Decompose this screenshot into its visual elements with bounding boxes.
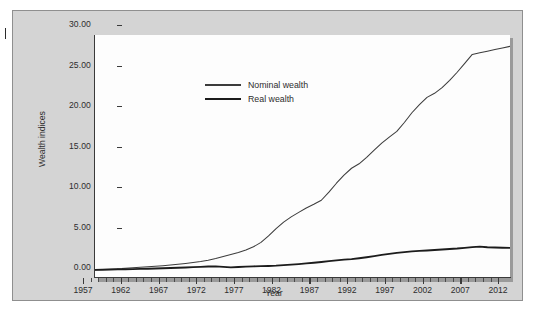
y-tick-label: 0.00 [47,262,91,272]
x-minor-tick [189,278,190,282]
x-major-tick [498,278,499,284]
x-minor-tick [325,278,326,282]
x-major-tick [196,278,197,284]
x-minor-tick [430,278,431,282]
x-minor-tick [113,278,114,282]
x-minor-tick [332,278,333,282]
y-tick-mark [117,25,122,26]
x-minor-tick [249,278,250,282]
x-minor-tick [355,278,356,282]
legend-line-swatch-nominal-icon [205,84,241,85]
x-minor-tick [181,278,182,282]
x-minor-tick [302,278,303,282]
x-minor-tick [370,278,371,282]
legend-item-real-wealth: Real wealth [205,92,395,106]
y-tick-mark [117,228,122,229]
chart-legend: Nominal wealth Real wealth [205,78,395,106]
legend-label-real-wealth: Real wealth [248,94,294,104]
x-minor-tick [257,278,258,282]
y-tick-label: 5.00 [47,222,91,232]
legend-label-nominal-wealth: Nominal wealth [248,80,308,90]
x-major-tick [121,278,122,284]
x-major-tick [385,278,386,284]
x-minor-tick [151,278,152,282]
y-tick-mark [117,66,122,67]
x-minor-tick [483,278,484,282]
x-minor-tick [377,278,378,282]
x-minor-tick [445,278,446,282]
y-tick-label: 25.00 [47,60,91,70]
x-minor-tick [211,278,212,282]
y-tick-mark [117,106,122,107]
x-major-tick [159,278,160,284]
chart-series-svg [95,35,510,278]
y-tick-mark [117,187,122,188]
x-minor-tick [226,278,227,282]
y-axis-ticks: 0.005.0010.0015.0020.0025.0030.00 [43,11,91,320]
x-major-tick [347,278,348,284]
y-tick-label: 15.00 [47,141,91,151]
x-minor-tick [264,278,265,282]
x-minor-tick [392,278,393,282]
page-canvas: Nominal wealth Real wealth 0.005.0010.00… [0,0,536,320]
x-minor-tick [317,278,318,282]
x-minor-tick [242,278,243,282]
y-axis-title: Wealth indices [37,94,47,184]
y-tick-label: 20.00 [47,100,91,110]
x-minor-tick [279,278,280,282]
legend-line-swatch-real-icon [205,98,241,100]
x-minor-tick [287,278,288,282]
x-minor-tick [400,278,401,282]
x-axis-title: Year [0,288,536,298]
x-minor-tick [340,278,341,282]
x-major-tick [309,278,310,284]
x-minor-tick [475,278,476,282]
x-minor-tick [408,278,409,282]
plot-area: Nominal wealth Real wealth [95,35,510,278]
legend-item-nominal-wealth: Nominal wealth [205,78,395,92]
y-tick-mark [117,147,122,148]
x-minor-tick [91,278,92,282]
y-tick-label: 30.00 [47,19,91,29]
x-minor-tick [362,278,363,282]
x-minor-tick [294,278,295,282]
x-minor-tick [219,278,220,282]
x-minor-tick [174,278,175,282]
page-margin-tick [5,28,6,39]
x-axis-title-text: Year [265,288,282,298]
x-minor-tick [143,278,144,282]
y-axis-line [94,35,95,278]
x-minor-tick [166,278,167,282]
x-minor-tick [468,278,469,282]
x-minor-tick [415,278,416,282]
figure-panel: Nominal wealth Real wealth 0.005.0010.00… [12,10,523,301]
y-tick-label: 10.00 [47,181,91,191]
x-minor-tick [106,278,107,282]
x-minor-tick [438,278,439,282]
x-major-tick [83,278,84,284]
x-minor-tick [98,278,99,282]
x-major-tick [234,278,235,284]
y-tick-mark [117,268,122,269]
x-minor-tick [136,278,137,282]
x-minor-tick [491,278,492,282]
x-minor-tick [204,278,205,282]
x-minor-tick [128,278,129,282]
x-major-tick [272,278,273,284]
x-major-tick [460,278,461,284]
x-minor-tick [453,278,454,282]
x-major-tick [423,278,424,284]
